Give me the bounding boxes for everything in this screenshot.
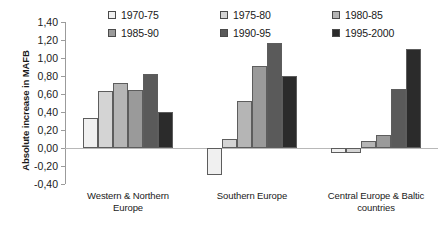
- bar-group: [66, 22, 190, 184]
- bar-1975-80[interactable]: [98, 91, 113, 148]
- bar-1990-95[interactable]: [143, 74, 158, 148]
- y-axis-tick: [61, 58, 65, 59]
- bar-1985-90[interactable]: [128, 90, 143, 149]
- legend-swatch-icon: [220, 11, 228, 19]
- bar-slot: [237, 22, 252, 184]
- y-axis-tick-label: -0,20: [34, 160, 58, 172]
- y-axis-tick: [61, 76, 65, 77]
- legend-swatch-icon: [332, 11, 340, 19]
- legend-item-1980-85[interactable]: 1980-85: [332, 10, 436, 21]
- legend-label: 1970-75: [121, 10, 159, 21]
- bar-1980-85[interactable]: [113, 83, 128, 148]
- bar-1985-90[interactable]: [252, 66, 267, 148]
- bar-slot: [376, 22, 391, 184]
- bar-slot: [83, 22, 98, 184]
- bar-slot: [222, 22, 237, 184]
- bar-slot: [128, 22, 143, 184]
- bar-slot: [267, 22, 282, 184]
- bar-1995-2000[interactable]: [406, 49, 421, 148]
- bar-group-bars: [314, 22, 438, 184]
- bar-slot: [391, 22, 406, 184]
- legend-item-1970-75[interactable]: 1970-75: [108, 10, 220, 21]
- y-axis-tick: [61, 40, 65, 41]
- y-axis-tick: [61, 166, 65, 167]
- bar-slot: [252, 22, 267, 184]
- legend-label: 1980-85: [345, 10, 383, 21]
- bar-slot: [113, 22, 128, 184]
- bar-slot: [98, 22, 113, 184]
- y-axis-tick: [61, 22, 65, 23]
- y-axis-tick-label: 0,40: [38, 106, 58, 118]
- bar-1995-2000[interactable]: [282, 76, 297, 148]
- y-axis-tick: [61, 94, 65, 95]
- bar-group: [190, 22, 314, 184]
- bar-1990-95[interactable]: [267, 43, 282, 148]
- bar-slot: [331, 22, 346, 184]
- bar-chart: 1970-751975-801980-851985-901990-951995-…: [0, 0, 441, 237]
- y-axis-tick-label: 1,20: [38, 34, 58, 46]
- legend-item-1975-80[interactable]: 1975-80: [220, 10, 332, 21]
- bar-slot: [143, 22, 158, 184]
- bar-1990-95[interactable]: [391, 89, 406, 148]
- bar-slot: [158, 22, 173, 184]
- y-axis-tick-label: 1,00: [38, 52, 58, 64]
- bar-slot: [282, 22, 297, 184]
- x-axis-category-label: Western & Northern Europe: [66, 190, 190, 214]
- legend-label: 1975-80: [233, 10, 271, 21]
- plot-area: 1,401,201,000,800,600,400,200,00-0,20-0,…: [65, 22, 438, 184]
- bar-group-bars: [66, 22, 190, 184]
- bar-slot: [361, 22, 376, 184]
- bar-1980-85[interactable]: [361, 141, 376, 148]
- y-axis-tick-label: 0,00: [38, 142, 58, 154]
- y-axis-tick: [61, 130, 65, 131]
- y-axis-tick-label: -0,40: [34, 178, 58, 190]
- y-axis-tick: [61, 112, 65, 113]
- y-axis-tick-label: 0,80: [38, 70, 58, 82]
- legend-swatch-icon: [108, 11, 116, 19]
- bar-groups: [66, 22, 438, 184]
- y-axis-tick-label: 0,20: [38, 124, 58, 136]
- bar-group-bars: [190, 22, 314, 184]
- bar-1975-80[interactable]: [346, 148, 361, 153]
- bar-slot: [207, 22, 222, 184]
- bar-1975-80[interactable]: [222, 139, 237, 148]
- bar-slot: [346, 22, 361, 184]
- bar-1970-75[interactable]: [207, 148, 222, 175]
- y-axis-tick-label: 0,60: [38, 88, 58, 100]
- bar-1970-75[interactable]: [331, 148, 346, 153]
- y-axis-tick: [61, 184, 65, 185]
- x-axis-category-label: Southern Europe: [190, 190, 314, 214]
- x-axis-category-label: Central Europe & Baltic countries: [314, 190, 438, 214]
- x-axis-category-labels: Western & Northern EuropeSouthern Europe…: [66, 190, 438, 214]
- y-axis-title: Absolute increase in MAFB: [20, 26, 31, 196]
- bar-1995-2000[interactable]: [158, 112, 173, 148]
- bar-group: [314, 22, 438, 184]
- y-axis-tick-label: 1,40: [38, 16, 58, 28]
- bar-1985-90[interactable]: [376, 135, 391, 148]
- bar-1980-85[interactable]: [237, 101, 252, 148]
- bar-1970-75[interactable]: [83, 118, 98, 148]
- bar-slot: [406, 22, 421, 184]
